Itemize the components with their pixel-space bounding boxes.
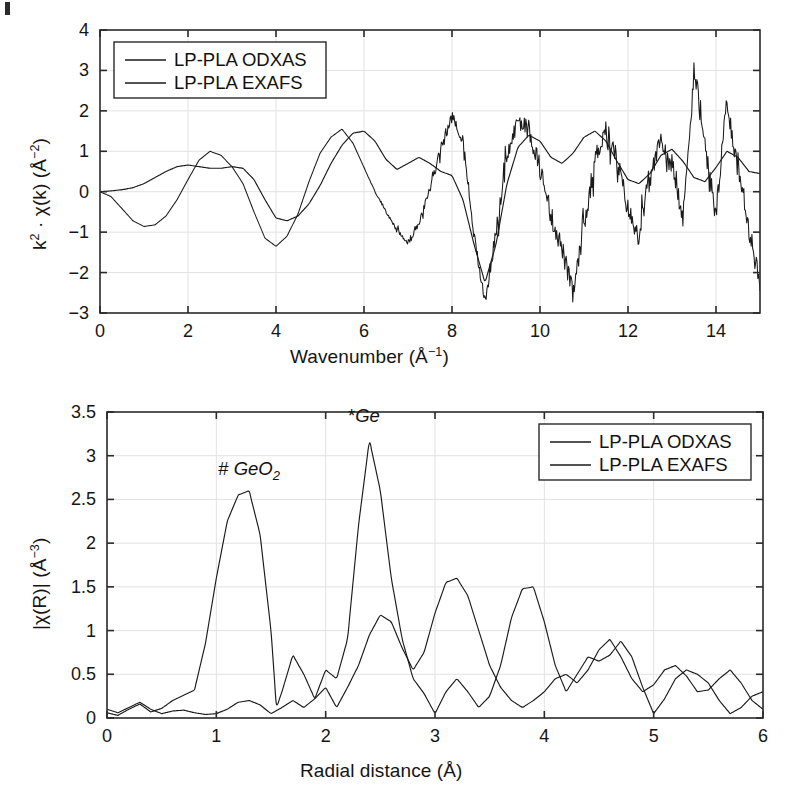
top-ylabel: k2 · χ(k) (Å−2) [28,138,51,250]
x-tick-label: 2 [321,726,331,746]
y-tick-label: 3.5 [71,402,96,422]
legend-label: LP-PLA ODXAS [599,431,732,452]
panel-k2-chi-k: 02468101214−3−2−101234LP-PLA ODXASLP-PLA… [0,0,787,385]
plot-top: 02468101214−3−2−101234LP-PLA ODXASLP-PLA… [0,0,787,385]
panel-chi-R: 012345600.511.522.533.5LP-PLA ODXASLP-PL… [0,395,787,805]
x-tick-label: 2 [183,321,193,341]
x-tick-label: 6 [758,726,768,746]
plot-bottom: 012345600.511.522.533.5LP-PLA ODXASLP-PL… [0,395,787,805]
x-tick-label: 8 [447,321,457,341]
y-tick-label: 1 [79,141,89,161]
x-tick-label: 5 [649,726,659,746]
x-tick-label: 0 [102,726,112,746]
y-tick-label: 2 [86,533,96,553]
y-tick-label: 1 [86,621,96,641]
bottom-ylabel: |χ(R)| (Å−3) [28,538,51,630]
x-tick-label: 3 [430,726,440,746]
y-tick-label: −2 [68,263,89,283]
legend[interactable]: LP-PLA ODXASLP-PLA EXAFS [539,424,751,480]
y-tick-label: 2 [79,101,89,121]
y-tick-label: 1.5 [71,577,96,597]
y-tick-label: 3 [86,446,96,466]
x-tick-label: 12 [618,321,638,341]
legend-label: LP-PLA EXAFS [174,72,303,93]
svg-text:*Ge: *Ge [348,405,380,426]
bottom-xlabel: Radial distance (Å) [300,760,462,782]
y-tick-label: 4 [79,20,89,40]
y-tick-label: −1 [68,222,89,242]
y-tick-label: 0 [79,182,89,202]
figure-root: 02468101214−3−2−101234LP-PLA ODXASLP-PLA… [0,0,787,805]
x-tick-label: 10 [530,321,550,341]
legend[interactable]: LP-PLA ODXASLP-PLA EXAFS [114,42,326,98]
y-tick-label: 3 [79,60,89,80]
peak-annotation: *Ge [348,405,380,426]
x-tick-label: 4 [271,321,281,341]
y-tick-label: 0 [86,708,96,728]
x-tick-label: 14 [706,321,726,341]
top-xlabel: Wavenumber (Å−1) [290,345,449,368]
x-tick-label: 0 [95,321,105,341]
y-tick-label: −3 [68,303,89,323]
y-tick-label: 2.5 [71,489,96,509]
legend-label: LP-PLA ODXAS [174,49,307,70]
x-tick-label: 6 [359,321,369,341]
x-tick-label: 4 [539,726,549,746]
legend-label: LP-PLA EXAFS [599,454,728,475]
y-tick-label: 0.5 [71,664,96,684]
x-tick-label: 1 [211,726,221,746]
